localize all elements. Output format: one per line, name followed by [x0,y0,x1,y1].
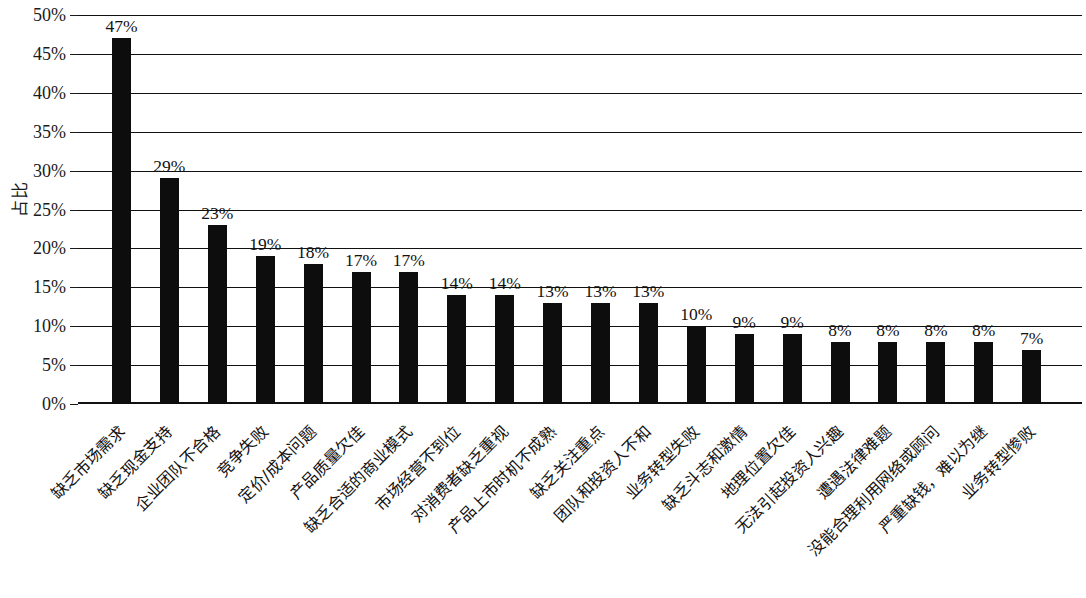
bar-value-label: 10% [671,305,721,323]
bar-value-label: 8% [815,321,865,339]
bar[interactable] [304,264,323,404]
y-axis-tick-mark [70,54,78,55]
bar[interactable] [112,38,131,404]
bar-value-label: 14% [480,274,530,292]
y-axis-tick-label: 30% [33,162,66,180]
bar[interactable] [926,342,945,404]
gridline [78,54,1082,55]
bar-value-label: 7% [1007,329,1057,347]
bar[interactable] [687,326,706,404]
bar[interactable] [543,303,562,404]
y-axis-tick-label: 50% [33,6,66,24]
y-axis-tick-mark [70,248,78,249]
y-axis-tick-label: 20% [33,239,66,257]
bar[interactable] [831,342,850,404]
y-axis-tick-mark [70,365,78,366]
y-axis-tick-label: 35% [33,123,66,141]
bar[interactable] [495,295,514,404]
gridline [78,15,1082,16]
bar[interactable] [1022,350,1041,404]
bar[interactable] [160,178,179,404]
y-axis-tick-label: 0% [42,395,66,413]
bar[interactable] [208,225,227,404]
y-axis-tick-label: 40% [33,84,66,102]
gridline [78,171,1082,172]
bar[interactable] [878,342,897,404]
bar-value-label: 47% [97,17,147,35]
bar-chart: 占比 50%45%40%35%30%25%20%15%10%5%0% 47%29… [0,0,1086,598]
bar[interactable] [447,295,466,404]
y-axis-tick-mark [70,171,78,172]
y-axis-tick-label: 5% [42,356,66,374]
gridline [78,132,1082,133]
bar-value-label: 29% [144,157,194,175]
y-axis-tick-label: 15% [33,278,66,296]
bar-value-label: 8% [911,321,961,339]
bar[interactable] [256,256,275,404]
bar-value-label: 14% [432,274,482,292]
y-axis-tick-mark [70,326,78,327]
bar[interactable] [735,334,754,404]
bar-value-label: 8% [863,321,913,339]
y-axis-tick-mark [70,287,78,288]
y-axis-tick-mark [70,404,78,405]
bar-value-label: 8% [959,321,1009,339]
bar[interactable] [783,334,802,404]
y-axis-tick-label: 10% [33,317,66,335]
bar-value-label: 9% [719,313,769,331]
bar-value-label: 13% [528,282,578,300]
bar-value-label: 18% [288,243,338,261]
bar[interactable] [399,272,418,404]
bar[interactable] [639,303,658,404]
bar-value-label: 19% [240,235,290,253]
bar-value-label: 17% [336,251,386,269]
plot-area: 47%29%23%19%18%17%17%14%14%13%13%13%10%9… [78,15,1082,404]
bar[interactable] [591,303,610,404]
y-axis: 50%45%40%35%30%25%20%15%10%5%0% [0,0,74,420]
y-axis-tick-mark [70,15,78,16]
bar-value-label: 17% [384,251,434,269]
bar-value-label: 13% [576,282,626,300]
bar-value-label: 13% [623,282,673,300]
y-axis-tick-mark [70,93,78,94]
y-axis-tick-mark [70,132,78,133]
gridline [78,93,1082,94]
y-axis-tick-label: 45% [33,45,66,63]
y-axis-tick-mark [70,210,78,211]
bar-value-label: 23% [192,204,242,222]
bar[interactable] [974,342,993,404]
bar-value-label: 9% [767,313,817,331]
gridline [78,248,1082,249]
bar[interactable] [352,272,371,404]
y-axis-tick-label: 25% [33,201,66,219]
